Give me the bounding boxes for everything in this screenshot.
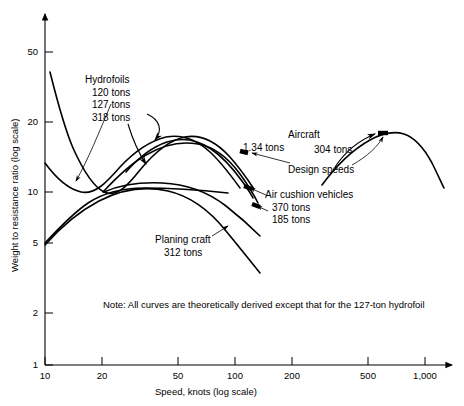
x-axis-ticks (45, 357, 425, 365)
annotation-air-cushion: Air cushion vehicles 370 tons 185 tons (265, 189, 353, 227)
acv-370-label: 370 tons (265, 202, 353, 215)
acv-heading: Air cushion vehicles (265, 189, 353, 202)
x-tick-10: 10 (25, 370, 65, 381)
planing-heading: Planing craft (155, 234, 211, 247)
annotation-aircraft-304: 304 tons (314, 144, 352, 157)
acv-185-label: 185 tons (265, 214, 353, 227)
x-tick-100: 100 (215, 370, 255, 381)
y-tick-1: 1 (16, 359, 38, 370)
curve-acv-370 (103, 143, 258, 203)
chart-figure: 50 20 10 5 2 1 10 20 50 100 200 500 1,00… (0, 0, 464, 406)
x-tick-500: 500 (348, 370, 388, 381)
annotation-small-hydrofoil-134: 1.34 tons (243, 142, 284, 155)
y-axis-ticks (45, 52, 53, 365)
leader-hydrofoil-318 (147, 114, 159, 140)
annotation-design-speeds: Design speeds (288, 164, 354, 177)
x-tick-50: 50 (158, 370, 198, 381)
planing-312-label: 312 tons (155, 247, 211, 260)
x-tick-20: 20 (82, 370, 122, 381)
leader-hydrofoil-127 (128, 124, 146, 164)
annotation-aircraft-heading: Aircraft (288, 129, 320, 142)
curve-planing-312 (45, 189, 260, 273)
x-axis-title: Speed, knots (log scale) (155, 386, 257, 397)
hydrofoils-heading: Hydrofoils (85, 74, 130, 87)
curve-hydrofoil-318 (45, 136, 240, 192)
x-tick-200: 200 (272, 370, 312, 381)
y-tick-50: 50 (16, 46, 38, 57)
annotation-hydrofoils: Hydrofoils 120 tons 127 tons 318 tons (85, 74, 130, 124)
hydrofoil-127-label: 127 tons (85, 99, 130, 112)
hydrofoil-120-label: 120 tons (85, 87, 130, 100)
chart-plot-area (0, 0, 464, 406)
y-axis-title: Weight to resistance ratio (log scale) (9, 119, 20, 272)
chart-note: Note: All curves are theoretically deriv… (103, 299, 425, 310)
curve-hydrofoil-127 (50, 72, 254, 193)
annotation-planing-craft: Planing craft 312 tons (155, 234, 211, 259)
y-tick-2: 2 (16, 307, 38, 318)
hydrofoil-318-label: 318 tons (85, 112, 130, 125)
x-tick-1000: 1,000 (405, 370, 445, 381)
leader-design-speed-134 (252, 153, 290, 163)
